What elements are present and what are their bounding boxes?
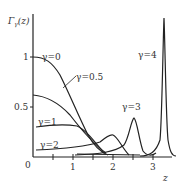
x-tick-label-3: 3 [150, 162, 156, 172]
label-leader-gamma-0.5 [63, 76, 76, 88]
annotation-gamma-0: γ=0 [42, 52, 61, 62]
x-tick-label-2: 2 [110, 162, 116, 172]
annotation-gamma-1: γ=1 [38, 117, 57, 127]
y-axis-label: Γγ(z) [7, 16, 30, 28]
x-tick-label-0: 0 [25, 160, 31, 170]
gamma-function-chart: Γγ(z) 1 0.5 0 1 2 3 z γ=0 γ=0.5 γ=1 γ=2 … [0, 0, 186, 187]
curve-gamma-4 [140, 18, 176, 156]
annotation-gamma-0.5: γ=0.5 [76, 72, 104, 82]
annotation-gamma-4: γ=4 [138, 50, 157, 60]
y-tick-label-1: 1 [23, 52, 29, 62]
annotation-gamma-2: γ=2 [40, 140, 59, 150]
x-tick-label-1: 1 [70, 162, 76, 172]
series-curves [33, 18, 176, 156]
x-axis-label: z [162, 173, 168, 183]
y-tick-label-0.5: 0.5 [14, 102, 29, 112]
annotation-gamma-3: γ=3 [122, 102, 141, 112]
